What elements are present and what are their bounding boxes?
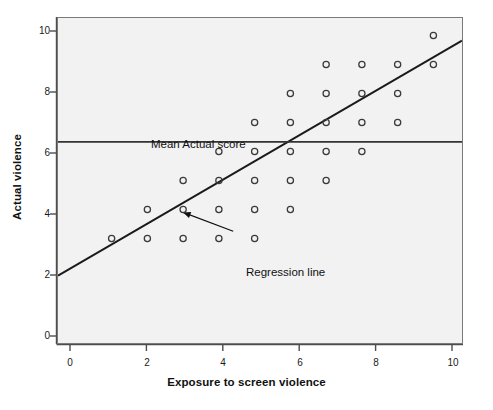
y-tick-label-10: 10 [28, 25, 50, 36]
regression-line-callout-arrow [183, 212, 233, 231]
x-tick-label-6: 6 [289, 357, 311, 368]
x-tick-label-10: 10 [442, 357, 464, 368]
y-tick-label-2: 2 [28, 269, 50, 280]
data-point-markers [109, 32, 437, 241]
x-tick-label-8: 8 [365, 357, 387, 368]
y-tick-label-4: 4 [28, 208, 50, 219]
x-tick-label-4: 4 [212, 357, 234, 368]
y-tick-label-8: 8 [28, 86, 50, 97]
y-tick-label-6: 6 [28, 147, 50, 158]
x-tick-label-2: 2 [136, 357, 158, 368]
x-tick-label-0: 0 [59, 357, 81, 368]
regression-line-label: Regression line [246, 266, 325, 278]
regression-line [58, 41, 462, 276]
mean-actual-score-label: Mean Actual score [151, 138, 246, 150]
x-axis-title: Exposure to screen violence [0, 376, 493, 388]
scatter-plot-figure: Actual violence 10 8 6 4 2 0 0 2 4 6 8 1… [0, 0, 493, 410]
y-tick-label-0: 0 [28, 330, 50, 341]
figure-caption [0, 399, 493, 410]
y-axis-title: Actual violence [11, 92, 23, 262]
plot-area: Mean Actual score Regression line [57, 17, 463, 344]
plot-canvas [58, 18, 462, 343]
